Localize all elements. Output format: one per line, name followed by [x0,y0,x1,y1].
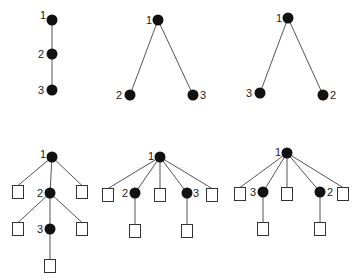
graph-tree-3-2: 132 [246,12,336,101]
leaf-square-icon [235,188,246,201]
leaf-square-icon [130,225,141,238]
node-label: 3 [246,87,252,99]
node-1-circle-icon [47,152,58,163]
edge [160,157,212,189]
leaf-square-icon [103,189,114,202]
edge [18,157,52,186]
edge [288,18,323,95]
edge [158,20,193,95]
node-1-circle-icon [47,15,58,26]
node-label: 1 [275,146,281,158]
diagram-canvas: 123 123 132 123 123 132 [0,0,360,279]
graph-chain: 123 [38,9,58,96]
node-1-circle-icon [283,13,294,24]
edge [160,157,187,193]
node-label: 1 [276,12,282,24]
node-2-circle-icon [130,188,141,199]
leaf-square-icon [77,223,88,236]
node-2-circle-icon [315,187,326,198]
leaf-square-icon [258,223,269,236]
node-label: 3 [38,84,44,96]
node-label: 2 [327,186,333,198]
edge [263,153,287,192]
node-2-circle-icon [125,90,136,101]
node-label: 2 [38,48,44,60]
leaf-square-icon [182,225,193,238]
leaf-square-icon [155,189,166,202]
node-1-circle-icon [282,148,293,159]
node-label: 3 [37,223,43,235]
leaf-square-icon [13,223,24,236]
edge [287,153,343,188]
node-1-circle-icon [153,15,164,26]
node-label: 3 [200,89,206,101]
leaf-square-icon [45,260,56,273]
node-3-circle-icon [258,187,269,198]
node-label: 3 [193,187,199,199]
edge [287,153,320,192]
edge [130,20,158,95]
edge [240,153,287,188]
edge [260,18,288,93]
graph-extended-tree-3-2: 132 [235,146,349,236]
node-label: 2 [122,187,128,199]
graph-tree-2-3: 123 [116,14,206,101]
edge [135,157,160,193]
leaf-square-icon [282,188,293,201]
node-label: 3 [250,186,256,198]
graph-extended-tree-2-3: 123 [103,150,218,238]
node-3-circle-icon [188,90,199,101]
node-2-circle-icon [318,90,329,101]
node-3-circle-icon [45,224,56,235]
node-label: 1 [40,148,46,160]
node-3-circle-icon [47,85,58,96]
leaf-square-icon [207,189,218,202]
leaf-square-icon [13,186,24,199]
node-label: 2 [37,187,43,199]
node-label: 2 [116,89,122,101]
node-label: 1 [146,14,152,26]
node-label: 2 [330,89,336,101]
leaf-square-icon [77,186,88,199]
node-label: 1 [148,150,154,162]
edge [52,157,82,186]
node-3-circle-icon [182,188,193,199]
graph-extended-chain: 123 [13,148,88,273]
node-3-circle-icon [255,88,266,99]
node-2-circle-icon [47,49,58,60]
leaf-square-icon [315,223,326,236]
node-2-circle-icon [45,188,56,199]
node-1-circle-icon [155,152,166,163]
node-label: 1 [40,9,46,21]
leaf-square-icon [338,188,349,201]
